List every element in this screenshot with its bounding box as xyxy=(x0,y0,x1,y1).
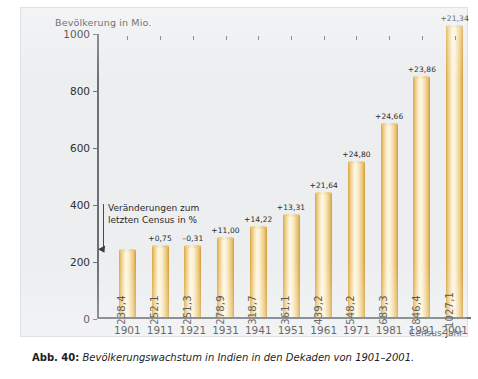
figure-caption-text: Bevölkerungswachstum in Indien in den De… xyxy=(82,352,414,363)
bar-value-label: 278,9 xyxy=(215,295,226,325)
bar-top-cap xyxy=(283,214,300,217)
x-axis-tick-mark xyxy=(193,36,194,40)
x-axis-tick-mark xyxy=(324,36,325,40)
bar-value-label: 238,4 xyxy=(116,295,127,325)
bar-value-label: 439,2 xyxy=(313,295,324,325)
bar: 278,9 xyxy=(217,238,234,317)
x-axis-tick-label: 1941 xyxy=(245,324,272,336)
scan-edge xyxy=(0,0,478,7)
y-axis-tick-label: 200 xyxy=(70,256,90,268)
figure-bevoelkerungswachstum-indien: Bevölkerung in Mio. 02004006008001000238… xyxy=(0,0,478,379)
y-axis-tick-label: 600 xyxy=(70,142,90,154)
bar-top-cap xyxy=(446,25,463,28)
bar-pct-change-label: +24,80 xyxy=(342,150,370,159)
y-axis-title: Bevölkerung in Mio. xyxy=(55,17,151,28)
annotation-text: Veränderungen zum letzten Census in % xyxy=(108,203,199,226)
bar-top-cap xyxy=(315,192,332,195)
bar-value-label: 361,1 xyxy=(280,295,291,325)
bar-top-cap xyxy=(184,245,201,248)
bar: 251,3 xyxy=(184,246,201,317)
bar-value-label: 1027,1 xyxy=(444,292,455,328)
bar-pct-change-label: +0,75 xyxy=(148,234,171,243)
bar-pct-change-label: –0,31 xyxy=(182,234,203,243)
bar-value-label: 683,3 xyxy=(378,295,389,325)
bar-top-cap xyxy=(413,76,430,79)
x-axis-tick-mark xyxy=(356,36,357,40)
bar-top-cap xyxy=(348,161,365,164)
bar-pct-change-label: +13,31 xyxy=(277,203,305,212)
bar-top-cap xyxy=(152,245,169,248)
x-axis-tick-mark xyxy=(389,36,390,40)
y-axis-tick-mark xyxy=(93,205,97,206)
x-axis-tick-mark xyxy=(422,36,423,40)
bar-pct-change-label: +23,86 xyxy=(408,65,436,74)
x-axis-tick-label: 1971 xyxy=(343,324,370,336)
annotation-line-1: Veränderungen zum xyxy=(108,203,199,215)
y-axis-tick-label: 800 xyxy=(70,85,90,97)
y-axis-line xyxy=(97,34,99,319)
y-axis-tick-mark xyxy=(93,262,97,263)
x-axis-tick-label: 1931 xyxy=(212,324,239,336)
bar-value-label: 251,3 xyxy=(182,295,193,325)
x-axis-tick-mark xyxy=(160,36,161,40)
x-axis-tick-label: 1921 xyxy=(179,324,206,336)
bar: 238,4 xyxy=(119,250,136,317)
bar: 361,1 xyxy=(283,215,300,317)
bar-pct-change-label: +14,22 xyxy=(244,215,272,224)
x-axis-tick-label: 1951 xyxy=(278,324,305,336)
bar-pct-change-label: +11,00 xyxy=(211,226,239,235)
bar-top-cap xyxy=(381,123,398,126)
bar-pct-change-label: +24,66 xyxy=(375,112,403,121)
y-axis-tick-label: 0 xyxy=(83,313,90,325)
plot-area: 02004006008001000238,41901252,1+0,751911… xyxy=(97,34,471,319)
bar: 252,1 xyxy=(152,246,169,317)
bar-value-label: 846,4 xyxy=(411,295,422,325)
x-axis-tick-label: 1911 xyxy=(147,324,174,336)
bar: 318,7 xyxy=(250,227,267,317)
bar-value-label: 548,2 xyxy=(345,295,356,325)
bar-pct-change-label: +21,34 xyxy=(440,14,468,23)
bar-value-label: 318,7 xyxy=(247,295,258,325)
annotation-leader-line xyxy=(103,204,104,251)
y-axis-tick-label: 400 xyxy=(70,199,90,211)
annotation-line-2: letzten Census in % xyxy=(108,215,199,227)
bar-value-label: 252,1 xyxy=(149,295,160,325)
y-axis-tick-mark xyxy=(93,34,97,35)
figure-caption-label: Abb. 40: xyxy=(32,352,79,363)
x-axis-tick-mark xyxy=(291,36,292,40)
bar-top-cap xyxy=(119,249,136,252)
bar-pct-change-label: +21,64 xyxy=(310,181,338,190)
y-axis-tick-mark xyxy=(93,148,97,149)
x-axis-tick-mark xyxy=(127,36,128,40)
bar: 846,4 xyxy=(413,77,430,317)
x-axis-tick-mark xyxy=(226,36,227,40)
x-axis-title: Census-Jahr xyxy=(409,328,463,338)
x-axis-tick-label: 1961 xyxy=(310,324,337,336)
figure-caption: Abb. 40: Bevölkerungswachstum in Indien … xyxy=(32,352,414,363)
bar-top-cap xyxy=(250,226,267,229)
bar: 439,2 xyxy=(315,193,332,317)
x-axis-tick-label: 1981 xyxy=(376,324,403,336)
y-axis-tick-label: 1000 xyxy=(63,28,90,40)
bar: 1027,1 xyxy=(446,26,463,317)
y-axis-tick-mark xyxy=(93,319,97,320)
bar-top-cap xyxy=(217,237,234,240)
y-axis-tick-mark xyxy=(93,91,97,92)
x-axis-tick-label: 1901 xyxy=(114,324,141,336)
x-axis-tick-mark xyxy=(455,36,456,40)
chart-panel: Bevölkerung in Mio. 02004006008001000238… xyxy=(20,7,468,337)
bar: 548,2 xyxy=(348,162,365,317)
x-axis-tick-mark xyxy=(258,36,259,40)
bar: 683,3 xyxy=(381,124,398,317)
